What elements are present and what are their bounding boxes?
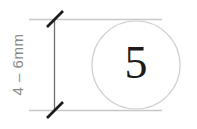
- component-circle: [92, 21, 180, 109]
- technical-drawing: [0, 0, 197, 129]
- diagram-canvas: 4 – 6mm 5: [0, 0, 197, 129]
